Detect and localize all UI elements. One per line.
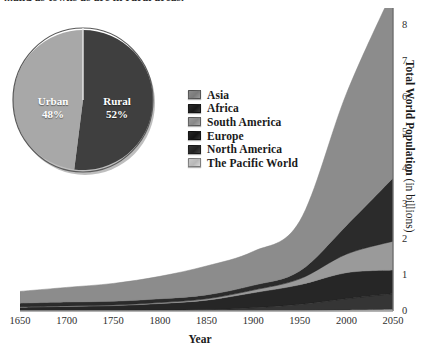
- y-tick-label: 2: [402, 233, 418, 244]
- x-tick-label: 1750: [93, 315, 133, 326]
- y-tick-label: 6: [402, 91, 418, 102]
- x-tick-label: 1850: [187, 315, 227, 326]
- legend-swatch-icon: [188, 145, 201, 154]
- y-tick-label: 8: [402, 19, 418, 30]
- legend-label: North America: [207, 143, 282, 155]
- legend-label: Europe: [207, 130, 244, 142]
- legend-swatch-icon: [188, 90, 201, 99]
- y-tick-label: 7: [402, 55, 418, 66]
- x-tick-label: 2000: [326, 315, 366, 326]
- legend-swatch-icon: [188, 117, 201, 126]
- legend-swatch-icon: [188, 158, 201, 167]
- legend-item: Europe: [188, 129, 298, 143]
- y-axis-title-bold: Total World Population: [404, 60, 416, 176]
- legend-label: The Pacific World: [207, 157, 298, 169]
- legend-item: The Pacific World: [188, 156, 298, 170]
- x-tick-label: 1650: [0, 315, 40, 326]
- x-axis-title: Year: [0, 333, 400, 345]
- y-tick-label: 1: [402, 269, 418, 280]
- pie-slice: [74, 30, 153, 170]
- x-tick-label: 2050: [373, 315, 413, 326]
- x-tick-label: 1700: [47, 315, 87, 326]
- legend-item: North America: [188, 142, 298, 156]
- y-tick-label: 4: [402, 162, 418, 173]
- legend-label: Asia: [207, 89, 229, 101]
- population-figure: ...and as towns as are in rural areas. U…: [0, 0, 431, 352]
- legend-label: Africa: [207, 102, 239, 114]
- y-tick-label: 3: [402, 198, 418, 209]
- legend-swatch-icon: [188, 131, 201, 140]
- legend-item: Africa: [188, 102, 298, 116]
- urban-rural-pie-chart: Urban 48% Rural 52%: [8, 17, 160, 179]
- legend-swatch-icon: [188, 104, 201, 113]
- y-tick-label: 0: [402, 305, 418, 316]
- legend-item: Asia: [188, 88, 298, 102]
- x-tick-label: 1950: [280, 315, 320, 326]
- legend-label: South America: [207, 116, 281, 128]
- chart-legend: AsiaAfricaSouth AmericaEuropeNorth Ameri…: [188, 88, 298, 170]
- legend-item: South America: [188, 115, 298, 129]
- x-tick-label: 1800: [140, 315, 180, 326]
- x-tick-label: 1900: [233, 315, 273, 326]
- y-tick-label: 5: [402, 126, 418, 137]
- pie-slice: [13, 30, 83, 169]
